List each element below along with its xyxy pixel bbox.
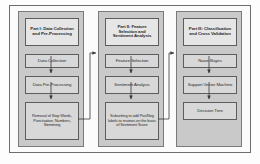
- step-removal-stop-words: Removal of Stop Words, Punctuation, Numb…: [25, 102, 79, 140]
- step-support-vector-machine: Support Vector Machine: [183, 76, 237, 94]
- step-data-pre-processing: Data Pre-Processing: [25, 76, 79, 94]
- step-sentiment-analysis: Sentiment Analysis: [105, 76, 159, 94]
- step-decision-tree: Decision Tree: [183, 102, 237, 120]
- part-1-header: Part I: Data Collection and Pre-Processi…: [25, 18, 79, 46]
- part-2-header: Part II: Feature Selection and Sentiment…: [105, 18, 159, 46]
- step-naive-bayes: Naive Bayes: [183, 54, 237, 68]
- step-data-collection: Data Collection: [25, 54, 79, 68]
- panel-part-3: Part III: Classification and Cross Valid…: [176, 11, 242, 147]
- step-feature-selection: Feature Selection: [105, 54, 159, 68]
- panel-part-1: Part I: Data Collection and Pre-Processi…: [18, 11, 84, 147]
- flowchart-figure: Part I: Data Collection and Pre-Processi…: [0, 0, 260, 164]
- part-3-header: Part III: Classification and Cross Valid…: [183, 18, 237, 46]
- step-subsetting-labels: Subsetting to add Pos/Neg labels to revi…: [105, 102, 159, 140]
- panel-part-2: Part II: Feature Selection and Sentiment…: [98, 11, 164, 147]
